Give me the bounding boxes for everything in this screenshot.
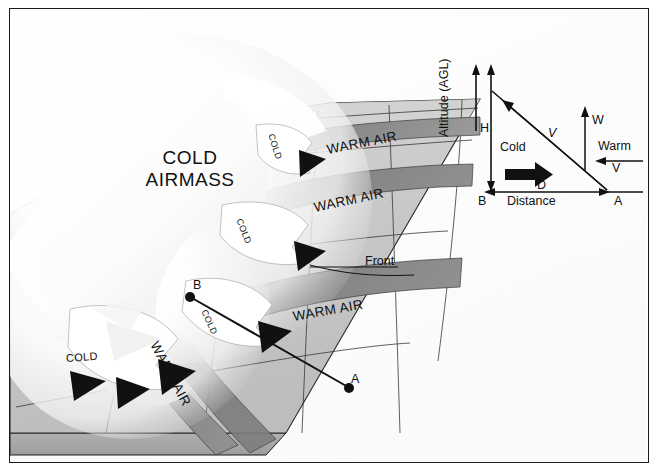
- inset-slope-velocity-symbol: V: [548, 126, 556, 140]
- point-a-label: A: [351, 372, 359, 386]
- figure-frame: COLD AIRMASS WARM AIR WARM AIR WARM AIR …: [9, 8, 649, 463]
- point-b-marker: [185, 292, 195, 302]
- inset-distance-symbol: D: [537, 178, 546, 192]
- inset-y-axis-label: Altitude (AGL): [437, 58, 451, 137]
- figure-canvas: COLD AIRMASS WARM AIR WARM AIR WARM AIR …: [0, 0, 658, 472]
- inset-warm-velocity-symbol: V: [612, 161, 620, 175]
- inset-height-symbol: H: [480, 121, 489, 135]
- cold-airmass-line2: AIRMASS: [120, 169, 260, 191]
- inset-point-b-label: B: [478, 194, 486, 208]
- diagram-svg: [10, 9, 647, 461]
- front-label: Front: [365, 254, 394, 268]
- inset-vertical-velocity-symbol: W: [592, 113, 604, 127]
- inset-point-a-label: A: [614, 194, 622, 208]
- point-b-label: B: [193, 278, 201, 292]
- cold-tag-4: COLD: [66, 350, 99, 364]
- cold-airmass-line1: COLD: [120, 147, 260, 169]
- inset-cold-label: Cold: [500, 140, 526, 154]
- inset-x-axis-label: Distance: [507, 194, 556, 208]
- cold-airmass-label: COLD AIRMASS: [120, 147, 260, 192]
- inset-warm-label: Warm: [598, 139, 631, 153]
